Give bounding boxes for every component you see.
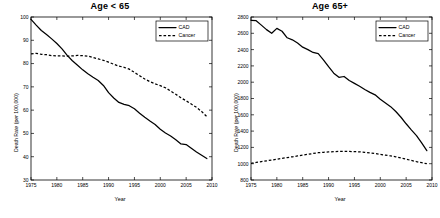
x-axis-label-right: Year — [250, 196, 430, 202]
chart-panel-age-65-plus: Age 65+ 80010001200140016001800200022002… — [220, 0, 440, 218]
plot-left: 3040506070809010019751980198519901995200… — [0, 0, 220, 218]
y-tick-label: 90 — [23, 37, 29, 43]
x-tick-label: 1980 — [271, 182, 282, 188]
series-line-cancer — [31, 53, 207, 116]
x-tick-label: 1995 — [129, 182, 140, 188]
y-tick-label: 70 — [23, 84, 29, 90]
legend-label-cancer: Cancer — [399, 32, 416, 38]
legend-label-cad: CAD — [179, 24, 190, 30]
y-tick-label: 2600 — [237, 30, 248, 36]
y-axis-label-left: Death Rate (per 100,000) — [13, 93, 19, 152]
legend-label-cad: CAD — [399, 24, 410, 30]
y-tick-label: 1400 — [237, 128, 248, 134]
y-tick-label: 1800 — [237, 95, 248, 101]
y-tick-label: 50 — [23, 130, 29, 136]
x-tick-label: 1975 — [245, 182, 256, 188]
y-tick-label: 100 — [20, 14, 29, 20]
x-tick-label: 2005 — [401, 182, 412, 188]
y-tick-label: 60 — [23, 107, 29, 113]
figure-container: Age < 65 3040506070809010019751980198519… — [0, 0, 440, 218]
y-tick-label: 80 — [23, 60, 29, 66]
x-tick-label: 2000 — [375, 182, 386, 188]
x-axis-label-left: Year — [30, 196, 210, 202]
y-tick-label: 1000 — [237, 161, 248, 167]
x-tick-label: 2010 — [426, 182, 437, 188]
x-tick-label: 1985 — [77, 182, 88, 188]
plot-right: 8001000120014001600180020002200240026002… — [220, 0, 440, 218]
x-tick-label: 1990 — [323, 182, 334, 188]
y-tick-label: 1200 — [237, 144, 248, 150]
y-tick-label: 1600 — [237, 112, 248, 118]
x-tick-label: 2005 — [181, 182, 192, 188]
x-tick-label: 1985 — [297, 182, 308, 188]
y-tick-label: 2800 — [237, 14, 248, 20]
y-tick-label: 2400 — [237, 47, 248, 53]
x-tick-label: 1990 — [103, 182, 114, 188]
x-tick-label: 2010 — [206, 182, 217, 188]
y-axis-label-right: Death Rate (per 100,000) — [233, 93, 239, 152]
x-tick-label: 1995 — [349, 182, 360, 188]
chart-panel-age-under-65: Age < 65 3040506070809010019751980198519… — [0, 0, 220, 218]
series-line-cancer — [251, 151, 427, 163]
x-tick-label: 2000 — [155, 182, 166, 188]
y-tick-label: 2200 — [237, 63, 248, 69]
x-tick-label: 1980 — [51, 182, 62, 188]
y-tick-label: 40 — [23, 154, 29, 160]
legend-label-cancer: Cancer — [179, 32, 196, 38]
x-tick-label: 1975 — [25, 182, 36, 188]
y-tick-label: 2000 — [237, 79, 248, 85]
